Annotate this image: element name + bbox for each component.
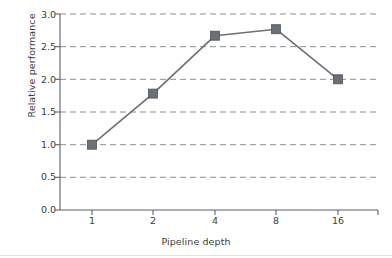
data-point-1 — [88, 140, 97, 149]
data-point-16 — [334, 75, 343, 84]
data-markers — [88, 25, 343, 150]
data-point-4 — [211, 31, 220, 40]
data-point-8 — [272, 25, 281, 34]
chart-figure: Relative performance Pipeline depth 3.0 … — [0, 0, 392, 258]
y-axis-ticks — [55, 14, 60, 210]
footer-divider — [0, 255, 392, 256]
data-point-2 — [149, 89, 158, 98]
plot-area — [0, 0, 392, 258]
x-axis-ticks — [92, 210, 378, 215]
